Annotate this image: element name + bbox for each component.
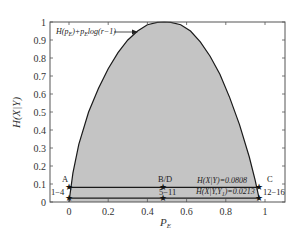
point-label-5-11: 5−11 [159, 187, 176, 197]
x-tick-label: 0.2 [102, 206, 115, 217]
y-tick-label: 0.5 [34, 107, 47, 118]
x-axis-label: PE [159, 216, 172, 230]
star-marker-icon: ★ [255, 182, 263, 192]
y-tick-label: 1 [41, 17, 46, 28]
point-label-c: C [267, 174, 273, 184]
point-label-12-16: 12−16 [263, 187, 285, 197]
y-tick-label: 0.7 [34, 71, 47, 82]
chart-canvas: ★★★★★★ 00.20.40.60.81 00.10.20.30.40.50.… [0, 0, 303, 241]
y-tick-label: 0.8 [34, 53, 47, 64]
x-tick-label: 0.4 [141, 206, 154, 217]
y-tick-label: 0.1 [34, 179, 47, 190]
x-tick-label: 0.8 [220, 206, 233, 217]
point-label-1-4: 1−4 [51, 187, 65, 197]
y-tick-label: 0.9 [34, 35, 47, 46]
y-tick-label: 0.2 [34, 161, 47, 172]
h-x-given-y-y1-label: H(X|Y,Y1)=0.0213 [195, 187, 255, 197]
y-tick-label: 0.6 [34, 89, 47, 100]
y-tick-label: 0.4 [34, 125, 47, 136]
point-label-bd: B/D [158, 174, 172, 184]
x-tick-label: 0 [67, 206, 72, 217]
point-label-a: A [62, 174, 69, 184]
h-x-given-y-label: H(X|Y)=0.0808 [196, 176, 247, 185]
y-tick-label: 0.3 [34, 143, 47, 154]
y-tick-label: 0 [41, 197, 46, 208]
curve-annotation: H(pE)+pElog(r−1) [55, 27, 116, 37]
x-tick-label: 1 [263, 206, 268, 217]
x-tick-label: 0.6 [180, 206, 193, 217]
y-axis-label: H(X|Y) [10, 97, 23, 129]
